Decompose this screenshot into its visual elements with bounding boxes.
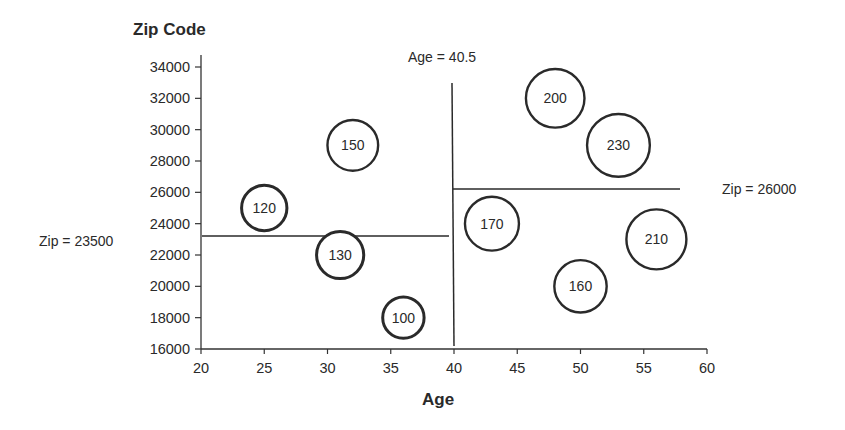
bubble-label: 160 <box>569 278 593 294</box>
bubble-label: 120 <box>253 200 277 216</box>
bubble-label: 130 <box>328 247 352 263</box>
bubble-point: 210 <box>626 209 686 269</box>
bubble-point: 130 <box>317 231 364 278</box>
x-tick-label: 30 <box>319 360 335 376</box>
zip-split-left-label: Zip = 23500 <box>39 233 114 249</box>
x-tick-label: 40 <box>446 360 462 376</box>
bubble-point: 230 <box>587 114 650 177</box>
bubble-point: 200 <box>526 69 585 128</box>
y-tick-label: 28000 <box>150 153 190 169</box>
bubbles: 120150130100200230170210160 <box>242 69 687 338</box>
bubble-point: 120 <box>242 185 287 230</box>
x-tick-label: 25 <box>256 360 272 376</box>
y-tick-label: 32000 <box>150 90 190 106</box>
x-tick-label: 45 <box>509 360 525 376</box>
age-split-line <box>452 83 454 346</box>
bubble-chart: Zip Code Age Age = 40.5 Zip = 23500 Zip … <box>0 0 845 430</box>
x-axis-title: Age <box>422 390 454 409</box>
y-tick-label: 30000 <box>150 122 190 138</box>
bubble-label: 210 <box>645 231 669 247</box>
x-tick-label: 55 <box>636 360 652 376</box>
x-tick-label: 20 <box>193 360 209 376</box>
y-axis-title: Zip Code <box>133 20 206 39</box>
y-tick-label: 24000 <box>150 216 190 232</box>
y-tick-label: 18000 <box>150 310 190 326</box>
bubble-point: 150 <box>327 120 378 171</box>
bubble-point: 100 <box>383 297 424 338</box>
bubble-label: 170 <box>480 216 504 232</box>
age-split-label: Age = 40.5 <box>408 49 476 65</box>
x-tick-label: 50 <box>572 360 588 376</box>
y-tick-label: 16000 <box>150 341 190 357</box>
bubble-label: 150 <box>341 137 365 153</box>
x-tick-label: 35 <box>383 360 399 376</box>
bubble-point: 170 <box>465 197 519 251</box>
bubble-label: 100 <box>392 310 416 326</box>
y-tick-label: 26000 <box>150 184 190 200</box>
zip-split-right-label: Zip = 26000 <box>722 181 797 197</box>
bubble-label: 230 <box>607 137 631 153</box>
y-tick-label: 34000 <box>150 59 190 75</box>
axes: 1600018000200002200024000260002800030000… <box>150 55 715 376</box>
y-tick-label: 20000 <box>150 278 190 294</box>
x-tick-label: 60 <box>699 360 715 376</box>
bubble-label: 200 <box>544 90 568 106</box>
y-tick-label: 22000 <box>150 247 190 263</box>
bubble-point: 160 <box>554 260 606 312</box>
